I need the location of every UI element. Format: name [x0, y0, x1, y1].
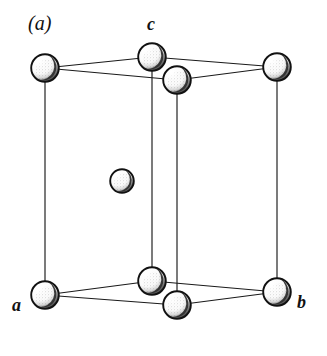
cell-edge-top-left-to-back [45, 57, 152, 68]
atom-corner-top-right [263, 53, 291, 81]
atom-body-centre [110, 169, 134, 193]
atom-corner-bottom-front [163, 291, 191, 319]
atom-corner-top-left [31, 54, 59, 82]
axis-label-c: c [147, 14, 155, 35]
cell-edge-top-back-to-right [152, 57, 277, 67]
figure-container: (a) c a b [0, 0, 327, 356]
atom-corner-top-back [138, 43, 166, 71]
unit-cell-diagram [0, 0, 327, 356]
cell-edge-bot-left-to-front [45, 295, 177, 305]
atom-corner-bottom-left [31, 281, 59, 309]
cell-edge-bot-left-to-back [45, 281, 152, 295]
panel-label: (a) [28, 12, 51, 35]
atom-corner-bottom-back [138, 267, 166, 295]
cell-edge-top-front-to-right [177, 67, 277, 80]
cell-edge-bot-front-to-right [177, 292, 277, 305]
atom-spheres [31, 43, 291, 319]
atom-corner-bottom-right [263, 278, 291, 306]
atom-corner-top-front [163, 66, 191, 94]
cell-edge-bot-back-to-right [152, 281, 277, 292]
axis-label-a: a [12, 295, 21, 316]
cell-edges [45, 57, 277, 305]
axis-label-b: b [297, 292, 306, 313]
